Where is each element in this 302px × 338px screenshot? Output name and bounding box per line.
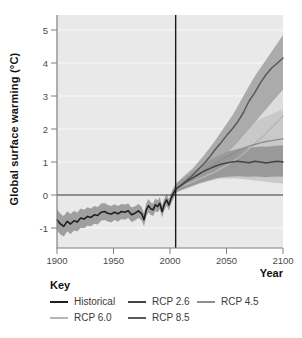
x-tick-label: 2050 — [216, 255, 237, 266]
historical-line-swatch — [50, 301, 68, 303]
legend-item-rcp85: RCP 8.5 — [128, 312, 197, 323]
legend-item-label: Historical — [74, 296, 115, 307]
legend-item-label: RCP 4.5 — [221, 296, 259, 307]
legend-title: Key — [50, 279, 290, 291]
x-tick-label: 2000 — [159, 255, 180, 266]
y-tick-label: 5 — [43, 25, 48, 36]
rcp26-line-swatch — [128, 301, 146, 303]
x-tick-label: 1900 — [46, 255, 67, 266]
warming-projections-figure: Global surface warming (°C) -10123451900… — [0, 0, 302, 338]
x-tick-label: 1950 — [103, 255, 124, 266]
rcp45-line-swatch — [197, 301, 215, 303]
legend-item-rcp26: RCP 2.6 — [128, 296, 197, 307]
legend-items: Historical RCP 2.6 RCP 4.5 RCP 6.0 RCP 8… — [50, 296, 290, 323]
y-tick-label: 4 — [43, 58, 48, 69]
y-axis-label: Global surface warming (°C) — [8, 14, 24, 244]
legend-item-label: RCP 6.0 — [74, 312, 112, 323]
legend-item-rcp60: RCP 6.0 — [50, 312, 128, 323]
rcp60-line-swatch — [50, 317, 68, 319]
x-tick-label: 2100 — [272, 255, 293, 266]
legend-item-label: RCP 8.5 — [152, 312, 190, 323]
legend-item-historical: Historical — [50, 296, 128, 307]
rcp85-line-swatch — [128, 317, 146, 319]
y-tick-label: 3 — [43, 91, 48, 102]
y-tick-label: -1 — [40, 223, 48, 234]
legend-item-label: RCP 2.6 — [152, 296, 190, 307]
legend: Key Historical RCP 2.6 RCP 4.5 RCP 6.0 R… — [50, 279, 290, 323]
y-tick-label: 0 — [43, 190, 48, 201]
y-tick-label: 1 — [43, 157, 48, 168]
y-tick-label: 2 — [43, 124, 48, 135]
x-axis-label: Year — [0, 267, 283, 279]
legend-item-rcp45: RCP 4.5 — [197, 296, 290, 307]
